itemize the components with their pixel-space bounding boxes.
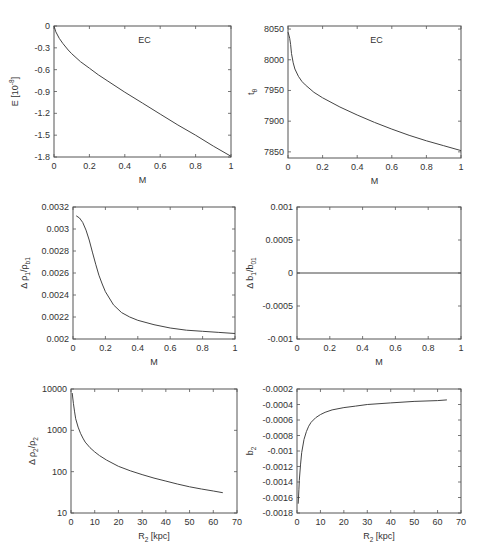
y-tick-label: 7850 — [264, 147, 284, 157]
x-tick-label: 10 — [315, 517, 325, 527]
x-tick-label: 0.4 — [356, 343, 369, 353]
y-tick-label: 0.0005 — [265, 235, 293, 245]
chart-delta-rho1-vs-M: 00.20.40.60.810.0020.00220.00240.00260.0… — [19, 202, 238, 367]
chart-delta-b1-vs-M: 00.20.40.60.81-0.001-0.000500.00050.001M… — [245, 202, 464, 367]
x-tick-label: 0.2 — [316, 162, 329, 172]
x-tick-label: 50 — [409, 517, 419, 527]
x-tick-label: 0.8 — [420, 162, 433, 172]
data-line — [298, 400, 447, 504]
y-tick-label: -1.2 — [34, 108, 50, 118]
x-tick-label: 0.2 — [83, 161, 96, 171]
annotation-label: EC — [138, 35, 151, 45]
x-tick-label: 60 — [433, 517, 443, 527]
y-tick-label: -0.0006 — [262, 415, 293, 425]
x-tick-label: 1 — [458, 343, 463, 353]
y-tick-label: 0.0028 — [41, 246, 69, 256]
y-tick-label: -0.001 — [267, 334, 293, 344]
y-tick-label: -1.8 — [34, 152, 50, 162]
y-tick-label: 10 — [57, 508, 67, 518]
y-tick-label: -0.0005 — [262, 301, 293, 311]
y-tick-label: 0.003 — [46, 224, 69, 234]
y-tick-label: 0.002 — [46, 334, 69, 344]
y-tick-label: 0.0026 — [41, 268, 69, 278]
x-tick-label: 70 — [232, 517, 242, 527]
y-tick-label: 0.0032 — [41, 202, 69, 212]
x-tick-label: 20 — [339, 517, 349, 527]
y-tick-label: -0.0012 — [262, 462, 293, 472]
chart-b2-vs-R2: 010203040506070-0.0018-0.0016-0.0014-0.0… — [245, 384, 466, 543]
y-tick-label: 0.0024 — [41, 290, 69, 300]
y-tick-label: 8000 — [264, 55, 284, 65]
x-tick-label: 20 — [113, 517, 123, 527]
x-axis-label: M — [150, 357, 158, 367]
x-tick-label: 1 — [232, 343, 237, 353]
data-line — [54, 26, 231, 156]
x-tick-label: 0.6 — [164, 343, 177, 353]
y-tick-label: -0.0004 — [262, 400, 293, 410]
y-axis-label: Δ ρ2/ρ2 — [27, 437, 39, 465]
plot-frame — [54, 26, 231, 157]
x-tick-label: 0.8 — [189, 161, 202, 171]
y-tick-label: -0.9 — [34, 87, 50, 97]
y-tick-label: -0.0002 — [262, 384, 293, 394]
x-tick-label: 0.8 — [196, 343, 209, 353]
x-tick-label: 0.2 — [99, 343, 112, 353]
y-tick-label: -0.0016 — [262, 493, 293, 503]
x-tick-label: 0 — [294, 343, 299, 353]
data-line — [288, 32, 461, 151]
plot-frame — [297, 389, 461, 513]
x-axis-label: M — [375, 357, 383, 367]
data-line — [72, 393, 223, 493]
chart-t-vs-M: 00.20.40.60.8178507900795080008050ECMtθ — [246, 24, 464, 186]
y-tick-label: -1.5 — [34, 130, 50, 140]
x-tick-label: 50 — [185, 517, 195, 527]
y-tick-label: -0.001 — [267, 446, 293, 456]
y-tick-label: 1000 — [47, 425, 67, 435]
x-axis-label: M — [139, 175, 147, 185]
plot-frame — [73, 207, 235, 339]
x-tick-label: 1 — [458, 162, 463, 172]
x-tick-label: 0 — [51, 161, 56, 171]
annotation-label: EC — [370, 35, 383, 45]
x-axis-label: R2 [kpc] — [138, 531, 170, 543]
x-tick-label: 0.6 — [389, 343, 402, 353]
x-tick-label: 30 — [137, 517, 147, 527]
x-tick-label: 70 — [456, 517, 466, 527]
y-tick-label: 7950 — [264, 85, 284, 95]
x-tick-label: 0.6 — [386, 162, 399, 172]
y-tick-label: 0 — [45, 21, 50, 31]
y-axis-label: tθ — [246, 89, 258, 96]
x-tick-label: 60 — [208, 517, 218, 527]
y-tick-label: -0.0018 — [262, 508, 293, 518]
x-tick-label: 10 — [90, 517, 100, 527]
y-tick-label: -0.0008 — [262, 431, 293, 441]
data-line — [76, 216, 235, 334]
figure-grid: 00.20.40.60.810-0.3-0.6-0.9-1.2-1.5-1.8E… — [0, 0, 488, 555]
x-tick-label: 0.2 — [324, 343, 337, 353]
chart-energy-vs-M: 00.20.40.60.810-0.3-0.6-0.9-1.2-1.5-1.8E… — [8, 21, 234, 185]
x-tick-label: 0 — [285, 162, 290, 172]
chart-delta-rho2-vs-R2: 01020304050607010100100010000R2 [kpc]Δ ρ… — [27, 384, 242, 543]
y-tick-label: 8050 — [264, 24, 284, 34]
x-tick-label: 0.6 — [154, 161, 167, 171]
y-axis-label: E [10-8] — [8, 77, 20, 106]
y-tick-label: -0.6 — [34, 65, 50, 75]
x-tick-label: 0 — [294, 517, 299, 527]
y-tick-label: 0.0022 — [41, 312, 69, 322]
y-tick-label: -0.0014 — [262, 477, 293, 487]
x-tick-label: 0 — [68, 517, 73, 527]
y-axis-label: b2 — [245, 446, 257, 455]
x-tick-label: 0.8 — [422, 343, 435, 353]
y-tick-label: 0.001 — [270, 202, 293, 212]
x-tick-label: 1 — [228, 161, 233, 171]
y-tick-label: -0.3 — [34, 43, 50, 53]
x-tick-label: 0.4 — [132, 343, 145, 353]
x-tick-label: 0 — [70, 343, 75, 353]
y-axis-label: Δ ρ1/ρb1 — [19, 257, 31, 289]
x-tick-label: 0.4 — [119, 161, 132, 171]
x-axis-label: R2 [kpc] — [363, 531, 395, 543]
y-tick-label: 100 — [52, 467, 67, 477]
x-tick-label: 30 — [362, 517, 372, 527]
x-tick-label: 40 — [386, 517, 396, 527]
plot-frame — [71, 389, 237, 513]
